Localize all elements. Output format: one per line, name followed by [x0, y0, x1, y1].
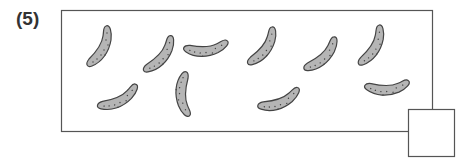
pickle-icon	[87, 26, 111, 67]
pickle-icon	[257, 75, 302, 122]
counting-figure	[0, 0, 471, 160]
pickle-icon	[165, 71, 207, 119]
pickle-icon	[247, 24, 277, 68]
pickle-icon	[364, 64, 412, 106]
pickle-icon	[143, 31, 175, 76]
pickle-icon	[303, 31, 339, 77]
pickle-icon	[358, 24, 384, 66]
pickle-icon	[183, 25, 230, 68]
pickle-icon	[96, 73, 139, 120]
answer-box[interactable]	[409, 110, 455, 157]
pickle-group	[87, 24, 411, 122]
